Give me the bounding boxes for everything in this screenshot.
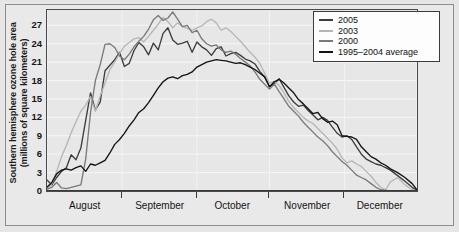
- y-tick-label: 21: [18, 56, 42, 67]
- x-tick-label: October: [214, 200, 250, 211]
- legend-label: 1995–2004 average: [338, 47, 418, 57]
- x-tick-label: September: [135, 200, 184, 211]
- legend-item[interactable]: 2003: [319, 26, 434, 37]
- x-tick-label: December: [357, 200, 403, 211]
- series-line: [47, 60, 417, 190]
- y-tick-label: 9: [18, 130, 42, 141]
- chart-figure: Southern hemisphere ozone hole area (mil…: [0, 0, 459, 232]
- legend-label: 2005: [338, 15, 358, 25]
- y-tick-label: 27: [18, 19, 42, 30]
- y-axis-ticks: 0369121518212427: [14, 0, 42, 232]
- chart-legend: 2005200320001995–2004 average: [313, 11, 440, 62]
- y-tick-label: 3: [18, 167, 42, 178]
- x-tick-label: November: [284, 200, 330, 211]
- legend-swatch-icon: [319, 51, 333, 53]
- x-tick-mark: [343, 192, 344, 198]
- y-tick-label: 12: [18, 111, 42, 122]
- x-tick-mark: [121, 192, 122, 198]
- x-tick-mark: [268, 192, 269, 198]
- legend-swatch-icon: [319, 40, 333, 42]
- legend-label: 2000: [338, 36, 358, 46]
- y-tick-label: 15: [18, 93, 42, 104]
- legend-item[interactable]: 2000: [319, 36, 434, 47]
- legend-item[interactable]: 1995–2004 average: [319, 47, 434, 58]
- y-tick-label: 0: [18, 185, 42, 196]
- y-tick-label: 18: [18, 75, 42, 86]
- y-tick-label: 6: [18, 148, 42, 159]
- legend-swatch-icon: [319, 30, 333, 32]
- x-tick-label: August: [69, 200, 100, 211]
- legend-swatch-icon: [319, 19, 333, 21]
- legend-label: 2003: [338, 26, 358, 36]
- y-tick-label: 24: [18, 38, 42, 49]
- legend-item[interactable]: 2005: [319, 15, 434, 26]
- x-tick-mark: [196, 192, 197, 198]
